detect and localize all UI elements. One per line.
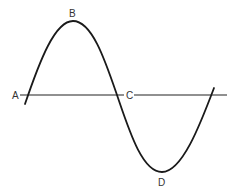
label-d: D — [158, 177, 165, 188]
label-c: C — [126, 90, 133, 101]
sine-wave-diagram: A B C D — [0, 0, 238, 193]
label-a: A — [12, 90, 19, 101]
label-b: B — [69, 8, 76, 19]
sine-curve — [25, 21, 214, 172]
